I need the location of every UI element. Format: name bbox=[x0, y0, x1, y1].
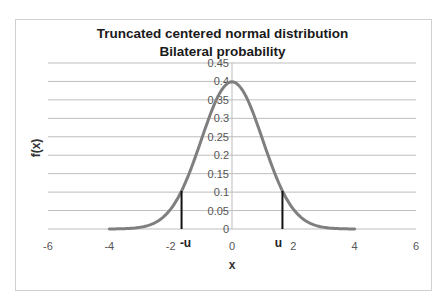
x-tick-label: -2 bbox=[166, 240, 176, 252]
y-tick-label: 0.3 bbox=[214, 112, 229, 124]
y-axis-title: f(x) bbox=[29, 139, 43, 158]
y-tick-label: 0.05 bbox=[208, 205, 229, 217]
marker-label-neg-u: -u bbox=[180, 236, 191, 250]
y-tick-label: 0.1 bbox=[214, 186, 229, 198]
x-tick-label: 4 bbox=[352, 240, 358, 252]
plot-area: 00.050.10.150.20.250.30.350.40.45-6-4-20… bbox=[0, 0, 445, 305]
x-tick-label: -6 bbox=[43, 240, 53, 252]
y-tick-label: 0 bbox=[223, 223, 229, 235]
y-tick-label: 0.15 bbox=[208, 168, 229, 180]
x-tick-label: 6 bbox=[413, 240, 419, 252]
y-tick-label: 0.25 bbox=[208, 131, 229, 143]
x-tick-label: 0 bbox=[229, 240, 235, 252]
x-tick-label: 2 bbox=[290, 240, 296, 252]
marker-label-u: u bbox=[275, 236, 282, 250]
x-axis-title: x bbox=[229, 258, 236, 272]
y-tick-label: 0.2 bbox=[214, 149, 229, 161]
y-tick-label: 0.45 bbox=[208, 57, 229, 69]
x-tick-label: -4 bbox=[104, 240, 114, 252]
